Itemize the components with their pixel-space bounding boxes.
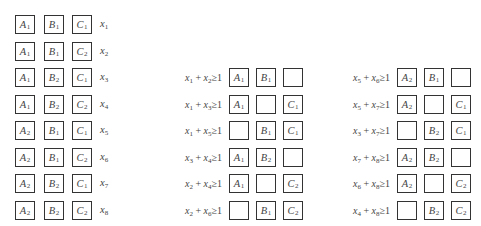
symbol-letter: B bbox=[49, 99, 55, 110]
symbol-subscript: 2 bbox=[56, 209, 60, 217]
constraint-label: x1 + x2≥1 bbox=[185, 72, 222, 83]
constraint-label: x2 + x4≥1 bbox=[185, 178, 222, 189]
box-c2: C2 bbox=[72, 148, 92, 167]
symbol-subscript: 2 bbox=[436, 156, 440, 164]
sub-b: 6 bbox=[376, 77, 380, 85]
box-a1: A1 bbox=[15, 15, 35, 34]
sub-a: 1 bbox=[189, 104, 193, 112]
symbol-letter: B bbox=[429, 205, 435, 216]
sub-b: 6 bbox=[208, 210, 212, 218]
empty-box bbox=[229, 201, 249, 220]
box-a1: A1 bbox=[229, 148, 249, 167]
box-a1: A1 bbox=[229, 174, 249, 193]
constraint-label: x1 + x3≥1 bbox=[185, 99, 222, 110]
symbol-subscript: 2 bbox=[436, 209, 440, 217]
sub-b: 8 bbox=[376, 183, 380, 191]
symbol-letter: B bbox=[49, 72, 55, 83]
symbol-letter: A bbox=[20, 19, 26, 30]
symbol-letter: C bbox=[287, 99, 294, 110]
constraint-label: x2 + x6≥1 bbox=[185, 205, 222, 216]
box-b1: B1 bbox=[256, 68, 276, 87]
symbol-subscript: 2 bbox=[56, 76, 60, 84]
constraint-label: x4 + x8≥1 bbox=[353, 205, 390, 216]
symbol-subscript: 1 bbox=[84, 182, 88, 190]
symbol-subscript: 2 bbox=[268, 156, 272, 164]
symbol-subscript: 2 bbox=[84, 103, 88, 111]
box-b2: B2 bbox=[44, 95, 64, 114]
symbol-subscript: 1 bbox=[56, 129, 60, 137]
symbol-subscript: 5 bbox=[105, 129, 109, 137]
symbol-letter: x bbox=[100, 18, 105, 29]
box-b1: B1 bbox=[44, 15, 64, 34]
box-b1: B1 bbox=[44, 42, 64, 61]
sub-a: 7 bbox=[357, 157, 361, 165]
empty-box bbox=[256, 95, 276, 114]
box-b1: B1 bbox=[256, 201, 276, 220]
sub-b: 5 bbox=[208, 130, 212, 138]
box-c2: C2 bbox=[283, 201, 303, 220]
symbol-letter: A bbox=[234, 178, 240, 189]
variable-label: x4 bbox=[100, 98, 108, 109]
symbol-subscript: 2 bbox=[84, 156, 88, 164]
box-b1: B1 bbox=[424, 68, 444, 87]
box-a1: A1 bbox=[229, 95, 249, 114]
symbol-subscript: 1 bbox=[27, 50, 31, 58]
box-c2: C2 bbox=[72, 201, 92, 220]
box-a2: A2 bbox=[397, 95, 417, 114]
box-b1: B1 bbox=[44, 148, 64, 167]
symbol-subscript: 2 bbox=[463, 209, 467, 217]
variable-label: x1 bbox=[100, 18, 108, 29]
symbol-letter: B bbox=[49, 19, 55, 30]
symbol-letter: x bbox=[100, 45, 105, 56]
symbol-subscript: 2 bbox=[409, 182, 413, 190]
variable-label: x3 bbox=[100, 71, 108, 82]
symbol-letter: B bbox=[261, 125, 267, 136]
box-a2: A2 bbox=[397, 68, 417, 87]
symbol-letter: B bbox=[49, 46, 55, 57]
symbol-subscript: 1 bbox=[268, 129, 272, 137]
box-b2: B2 bbox=[424, 121, 444, 140]
empty-box bbox=[424, 174, 444, 193]
sub-b: 4 bbox=[208, 183, 212, 191]
symbol-subscript: 1 bbox=[295, 129, 299, 137]
empty-box bbox=[256, 174, 276, 193]
box-c2: C2 bbox=[451, 174, 471, 193]
symbol-subscript: 1 bbox=[268, 209, 272, 217]
empty-box bbox=[424, 95, 444, 114]
symbol-letter: C bbox=[455, 125, 462, 136]
symbol-subscript: 1 bbox=[241, 182, 245, 190]
symbol-subscript: 2 bbox=[105, 50, 109, 58]
symbol-subscript: 2 bbox=[409, 76, 413, 84]
constraint-label: x5 + x6≥1 bbox=[353, 72, 390, 83]
symbol-letter: C bbox=[76, 72, 83, 83]
symbol-letter: C bbox=[76, 205, 83, 216]
symbol-letter: C bbox=[76, 19, 83, 30]
symbol-subscript: 1 bbox=[295, 103, 299, 111]
sub-a: 3 bbox=[357, 130, 361, 138]
symbol-letter: x bbox=[100, 151, 105, 162]
variable-label: x5 bbox=[100, 124, 108, 135]
empty-box bbox=[229, 121, 249, 140]
symbol-letter: A bbox=[20, 99, 26, 110]
symbol-subscript: 1 bbox=[56, 50, 60, 58]
symbol-subscript: 1 bbox=[84, 23, 88, 31]
symbol-letter: C bbox=[455, 205, 462, 216]
box-c2: C2 bbox=[72, 95, 92, 114]
symbol-letter: B bbox=[49, 125, 55, 136]
symbol-subscript: 1 bbox=[268, 76, 272, 84]
sub-a: 5 bbox=[357, 77, 361, 85]
constraint-label: x3 + x7≥1 bbox=[353, 125, 390, 136]
symbol-subscript: 2 bbox=[27, 156, 31, 164]
symbol-subscript: 4 bbox=[105, 103, 109, 111]
symbol-subscript: 1 bbox=[463, 129, 467, 137]
symbol-letter: B bbox=[429, 72, 435, 83]
symbol-letter: C bbox=[287, 205, 294, 216]
symbol-letter: B bbox=[261, 72, 267, 83]
symbol-letter: C bbox=[287, 178, 294, 189]
symbol-subscript: 1 bbox=[27, 76, 31, 84]
variable-label: x7 bbox=[100, 177, 108, 188]
symbol-letter: B bbox=[49, 205, 55, 216]
symbol-letter: B bbox=[261, 152, 267, 163]
sub-b: 8 bbox=[376, 157, 380, 165]
symbol-letter: A bbox=[234, 72, 240, 83]
